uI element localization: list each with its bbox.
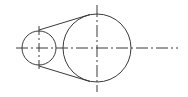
belt-upper-tangent [39,15,90,31]
belt-lower-tangent [39,66,90,82]
belt-pulley-diagram [0,0,188,97]
